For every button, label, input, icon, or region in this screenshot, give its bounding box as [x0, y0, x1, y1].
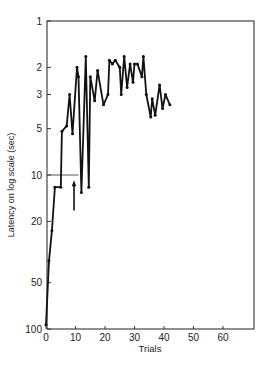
data-point	[47, 259, 50, 262]
data-point	[158, 83, 161, 86]
y-tick-label: 5	[36, 123, 42, 134]
data-point	[84, 55, 87, 58]
axis-ticks: 01020304050601235102050100	[25, 16, 229, 344]
data-point	[111, 62, 114, 65]
data-point	[96, 69, 99, 72]
x-tick-label: 60	[217, 332, 229, 343]
data-series	[45, 55, 172, 326]
data-point	[77, 75, 80, 78]
data-point	[108, 59, 111, 62]
data-point	[93, 99, 96, 102]
data-point	[168, 103, 171, 106]
data-point	[145, 93, 148, 96]
data-point	[151, 97, 154, 100]
latency-chart: 01020304050601235102050100 Latency on lo…	[0, 0, 268, 368]
data-point	[149, 115, 152, 118]
latency-line	[46, 57, 170, 325]
data-point	[65, 124, 68, 127]
data-point	[133, 62, 136, 65]
data-point	[80, 191, 83, 194]
data-point	[118, 66, 121, 69]
data-point	[142, 55, 145, 58]
data-point	[53, 186, 56, 189]
data-point	[132, 81, 135, 84]
x-tick-label: 30	[129, 332, 141, 343]
data-point	[50, 229, 53, 232]
x-tick-label: 50	[188, 332, 200, 343]
data-point	[120, 93, 123, 96]
data-point	[164, 93, 167, 96]
x-tick-label: 10	[70, 332, 82, 343]
y-tick-label: 2	[36, 62, 42, 73]
data-point	[161, 107, 164, 110]
data-point	[89, 75, 92, 78]
x-tick-label: 20	[99, 332, 111, 343]
data-point	[45, 323, 48, 326]
data-point	[68, 93, 71, 96]
y-tick-label: 100	[25, 324, 42, 335]
data-point	[136, 62, 139, 65]
x-tick-label: 40	[158, 332, 170, 343]
y-tick-label: 10	[31, 170, 43, 181]
data-point	[71, 132, 74, 135]
plot-area: 01020304050601235102050100	[0, 0, 268, 368]
y-tick-label: 1	[36, 16, 42, 27]
data-point	[102, 103, 105, 106]
y-tick-label: 50	[31, 277, 43, 288]
data-point	[87, 186, 90, 189]
data-point	[129, 62, 132, 65]
data-point	[106, 93, 109, 96]
x-tick-label: 0	[43, 332, 49, 343]
data-point	[60, 130, 63, 133]
data-point	[123, 55, 126, 58]
arrow-up-icon	[72, 180, 76, 186]
y-tick-label: 3	[36, 89, 42, 100]
data-point	[59, 186, 62, 189]
x-axis-label: Trials	[139, 343, 162, 354]
data-point	[126, 86, 129, 89]
data-point	[140, 75, 143, 78]
data-point	[114, 59, 117, 62]
data-point	[154, 114, 157, 117]
y-tick-label: 20	[31, 216, 43, 227]
reference-marks	[47, 175, 78, 210]
data-point	[75, 66, 78, 69]
y-axis-label: Latency on log scale (sec)	[6, 133, 16, 238]
